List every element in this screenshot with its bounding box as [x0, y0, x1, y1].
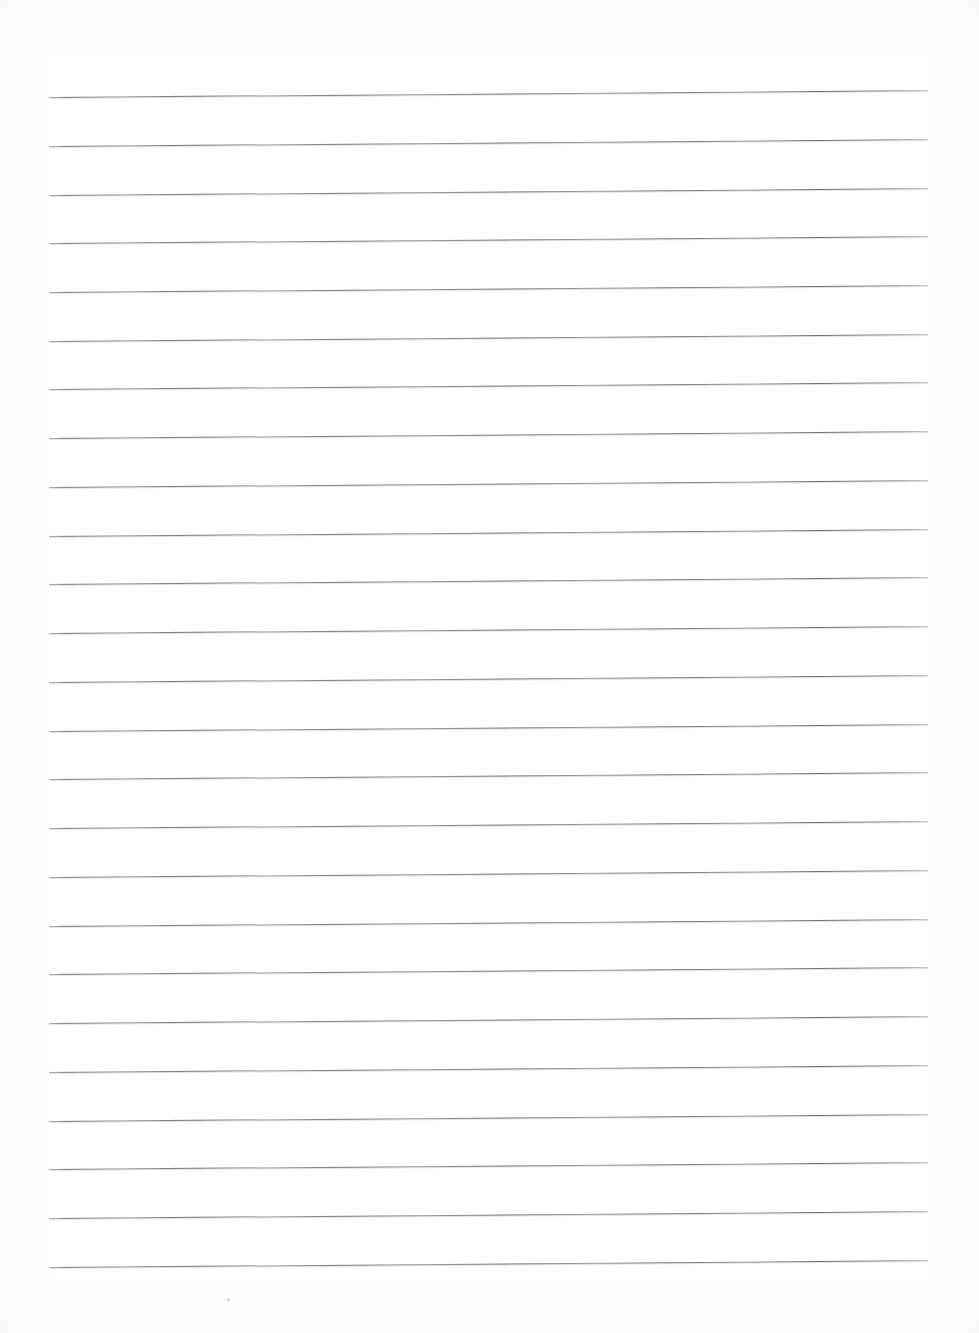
ruled-line	[49, 821, 928, 829]
ruled-line	[49, 188, 928, 196]
ruled-line	[49, 675, 928, 683]
ruled-line	[49, 1065, 928, 1073]
ruled-line	[49, 626, 928, 634]
ruled-line	[49, 967, 928, 975]
ruled-line	[49, 382, 928, 390]
ruled-line	[49, 1114, 928, 1122]
ruled-line	[49, 285, 928, 293]
ruled-line	[49, 772, 928, 780]
scanned-page: Blank ruled notebook page	[0, 0, 979, 1333]
ruled-line	[49, 1016, 928, 1024]
ruled-line	[49, 139, 928, 147]
dust-speck	[227, 1298, 230, 1301]
ruled-line	[49, 724, 928, 732]
ruled-line	[49, 919, 928, 927]
ruled-line	[49, 577, 928, 585]
ruled-line	[49, 431, 928, 439]
ruled-line	[49, 334, 928, 342]
ruled-line	[49, 1211, 928, 1219]
ruled-line	[49, 480, 928, 488]
ruled-lines-area	[0, 0, 979, 1333]
ruled-line	[49, 870, 928, 878]
ruled-line	[49, 529, 928, 537]
ruled-line	[49, 90, 928, 98]
ruled-line	[49, 236, 928, 244]
ruled-line	[49, 1260, 928, 1268]
ruled-line	[49, 1162, 928, 1170]
